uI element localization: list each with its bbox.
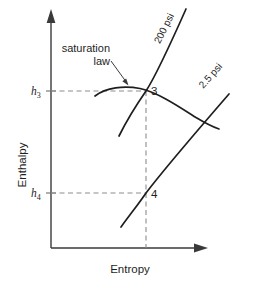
tick-h3-subscript: 3 [37, 91, 41, 100]
pressure-2p5psi-label: 2.5 psi [197, 61, 225, 90]
saturation-law-callout-arrow [111, 61, 129, 86]
enthalpy-entropy-diagram: Enthalpy Entropy h3 h4 3 4 200 psi 2.5 p… [0, 0, 255, 285]
saturation-law-line-2: law [93, 55, 110, 67]
pressure-line-2p5psi [121, 94, 229, 227]
y-axis-label: Enthalpy [16, 142, 28, 187]
saturation-law-annotation: saturation law [62, 42, 110, 67]
tick-label-h4: h4 [31, 187, 41, 202]
x-axis [51, 244, 208, 253]
saturation-law-line-1: saturation [62, 42, 110, 54]
svg-text:h3: h3 [31, 85, 41, 100]
state-point-3-label: 3 [151, 85, 157, 97]
tick-h4-subscript: 4 [37, 193, 41, 202]
svg-text:h4: h4 [31, 187, 41, 202]
x-axis-label: Entropy [110, 263, 150, 275]
y-axis-arrowhead [47, 9, 56, 23]
x-axis-arrowhead [194, 244, 208, 253]
tick-label-h3: h3 [31, 85, 41, 100]
state-point-4-label: 4 [151, 188, 158, 200]
pressure-line-200psi [119, 9, 186, 136]
y-axis [47, 9, 56, 248]
